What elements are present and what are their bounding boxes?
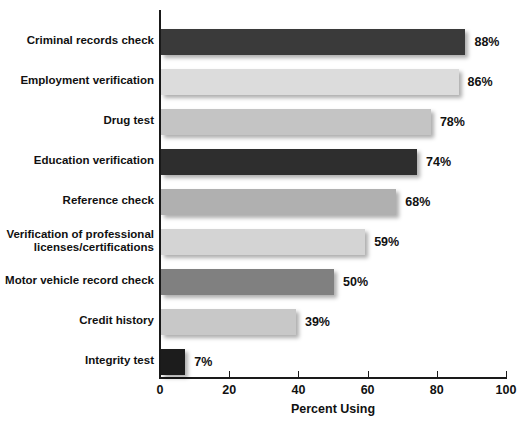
bar-value-label: 86% bbox=[468, 75, 493, 89]
x-tick-label: 100 bbox=[496, 383, 517, 397]
bar-chart: 020406080100 Criminal records check88%Em… bbox=[0, 0, 524, 431]
bar-value-label: 78% bbox=[440, 115, 465, 129]
bar-value-label: 39% bbox=[305, 315, 330, 329]
bar-row: Employment verification86% bbox=[0, 59, 524, 99]
x-axis-title: Percent Using bbox=[159, 402, 507, 416]
bar bbox=[161, 109, 431, 135]
x-tick-label: 0 bbox=[157, 383, 164, 397]
x-tick-label: 80 bbox=[430, 383, 444, 397]
bar-value-label: 50% bbox=[343, 275, 368, 289]
bar-value-label: 7% bbox=[194, 355, 212, 369]
bar-row: Drug test78% bbox=[0, 99, 524, 139]
category-label: Criminal records check bbox=[0, 34, 154, 48]
category-label: Education verification bbox=[0, 154, 154, 168]
bar-row: Reference check68% bbox=[0, 179, 524, 219]
bar bbox=[161, 269, 334, 295]
category-label: Employment verification bbox=[0, 74, 154, 88]
bar bbox=[161, 309, 296, 335]
bar-value-label: 74% bbox=[426, 155, 451, 169]
bar-row: Education verification74% bbox=[0, 139, 524, 179]
bar-row: Integrity test7% bbox=[0, 339, 524, 379]
category-label: Verification of professional licenses/ce… bbox=[0, 228, 154, 255]
category-label: Drug test bbox=[0, 114, 154, 128]
category-label: Credit history bbox=[0, 314, 154, 328]
bar bbox=[161, 29, 465, 55]
bar-row: Verification of professional licenses/ce… bbox=[0, 219, 524, 259]
x-tick-label: 20 bbox=[222, 383, 236, 397]
bar-row: Motor vehicle record check50% bbox=[0, 259, 524, 299]
bar-row: Credit history39% bbox=[0, 299, 524, 339]
bar bbox=[161, 189, 396, 215]
category-label: Integrity test bbox=[0, 354, 154, 368]
category-label: Reference check bbox=[0, 194, 154, 208]
bar bbox=[161, 69, 459, 95]
bar-value-label: 59% bbox=[374, 235, 399, 249]
bar bbox=[161, 149, 417, 175]
x-tick-label: 40 bbox=[291, 383, 305, 397]
bar-value-label: 68% bbox=[405, 195, 430, 209]
category-label: Motor vehicle record check bbox=[0, 274, 154, 288]
bar-row: Criminal records check88% bbox=[0, 19, 524, 59]
bar bbox=[161, 349, 185, 375]
x-tick-label: 60 bbox=[361, 383, 375, 397]
bar bbox=[161, 229, 365, 255]
bar-value-label: 88% bbox=[474, 35, 499, 49]
